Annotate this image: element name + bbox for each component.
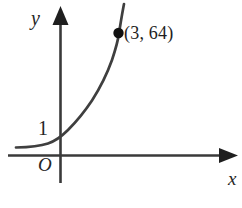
y-intercept-tick-label: 1 [38, 118, 48, 138]
exponential-graph-figure: y x O 1 (3, 64) [0, 0, 242, 208]
graph-canvas [0, 0, 242, 208]
point-coordinate-label: (3, 64) [124, 24, 173, 42]
origin-label: O [38, 155, 52, 174]
y-axis-label: y [31, 8, 40, 28]
data-point-marker [113, 28, 123, 38]
y-axis-arrowhead [53, 6, 69, 25]
x-axis-label: x [228, 169, 236, 188]
x-axis-arrowhead [219, 148, 238, 163]
